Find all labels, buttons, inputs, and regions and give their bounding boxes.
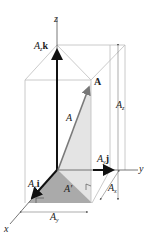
x-axis-label: x — [3, 223, 9, 234]
dimension-z-label: Az — [115, 99, 125, 111]
y-axis-label: y — [138, 163, 144, 174]
dimension-y-label: Ay — [49, 211, 59, 223]
magnitude-label: A — [65, 112, 73, 123]
vector-components-diagram: z y x Azk A A Ayj Axi A' Az Ay Ax — [0, 0, 152, 239]
diagram-canvas: z y x Azk A A Ayj Axi A' Az Ay Ax — [0, 0, 152, 239]
projection-label: A' — [63, 183, 73, 194]
component-z-label: Azk — [33, 40, 48, 52]
dimension-x-label: Ax — [107, 182, 117, 194]
vector-a-label: A — [94, 76, 102, 87]
component-x-label: Axi — [27, 178, 40, 190]
z-axis-label: z — [53, 13, 58, 24]
component-y-label: Ayj — [96, 153, 109, 165]
